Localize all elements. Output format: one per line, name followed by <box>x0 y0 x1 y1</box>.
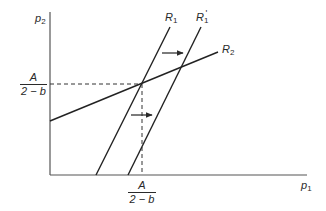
r1-shifted-line <box>128 27 201 175</box>
r2-label-base: R <box>222 43 230 55</box>
y-axis-label: p2 <box>35 13 46 26</box>
reaction-function-diagram <box>0 0 326 211</box>
r2-line <box>50 52 218 121</box>
y-equilibrium-denominator: 2 − b <box>20 85 47 97</box>
r2-label: R2 <box>222 44 234 57</box>
r1-shifted-label-base: R <box>196 11 204 23</box>
r1-line <box>96 27 170 175</box>
r1-label-sub: 1 <box>173 16 177 25</box>
x-axis-label: p1 <box>301 180 312 193</box>
x-equilibrium-value: A 2 − b <box>128 180 156 205</box>
y-equilibrium-value: A 2 − b <box>20 72 47 97</box>
r1-shifted-label-sub: 1' <box>204 16 210 25</box>
x-equilibrium-numerator: A <box>128 180 156 193</box>
r1-shifted-label: R1' <box>196 12 210 25</box>
r1-label: R1 <box>165 12 177 25</box>
r1-shifted-prime: ' <box>205 8 207 18</box>
y-axis-label-sub: 2 <box>41 17 45 26</box>
r2-label-sub: 2 <box>230 48 234 57</box>
y-equilibrium-numerator: A <box>20 72 47 85</box>
x-axis-label-sub: 1 <box>307 184 311 193</box>
x-equilibrium-denominator: 2 − b <box>128 193 156 205</box>
r1-label-base: R <box>165 11 173 23</box>
